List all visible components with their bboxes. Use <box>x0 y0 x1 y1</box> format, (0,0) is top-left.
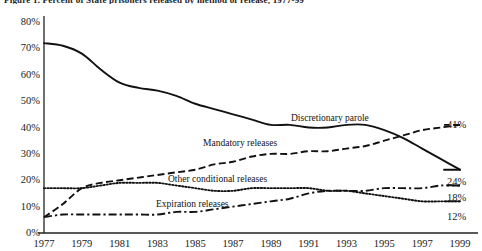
series-label-discretionary-parole: Discretionary parole <box>291 113 369 123</box>
end-label-expiration-releases: 18% <box>447 192 466 203</box>
end-label-mandatory-releases: 41% <box>447 119 466 130</box>
series-label-expiration-releases: Expiration releases <box>156 199 229 209</box>
chart-figure: Figure 1. Percent of State prisoners rel… <box>0 0 482 251</box>
series-label-other-conditional-releases: Other conditional releases <box>168 174 267 184</box>
end-label-other-conditional-releases: 12% <box>447 211 466 222</box>
end-label-discretionary-parole: 24% <box>447 176 466 187</box>
series-line-discretionary-parole <box>44 43 460 170</box>
series-line-expiration-releases <box>44 185 460 217</box>
series-label-mandatory-releases: Mandatory releases <box>203 138 277 148</box>
plot-area <box>0 0 482 251</box>
series-line-other-conditional-releases <box>44 183 460 202</box>
